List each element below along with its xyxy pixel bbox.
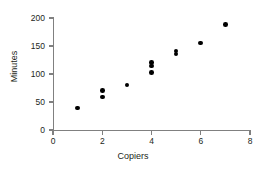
x-tick-label-4: 4 [142,137,162,146]
x-tick-label-6: 6 [191,137,211,146]
data-point [198,41,203,46]
y-axis-title: Minutes [10,32,19,102]
y-tick-label-50: 50 [36,98,45,107]
x-tick-2 [102,130,103,135]
data-point [149,70,154,75]
x-tick-label-0: 0 [43,137,63,146]
y-tick-label-200: 200 [31,14,45,23]
x-tick-6 [200,130,201,135]
data-point [100,95,105,100]
x-tick-label-8: 8 [240,137,260,146]
x-tick-0 [52,130,53,135]
x-tick-8 [249,130,250,135]
plot-data-area [53,18,250,130]
scatter-plot-figure: 050100150200 02468 Minutes Copiers [0,0,266,175]
data-point [174,52,179,57]
y-tick-label-150: 150 [31,42,45,51]
x-tick-4 [151,130,152,135]
data-point [100,88,105,93]
y-axis-tick-labels: 050100150200 [0,0,45,175]
data-point [125,83,130,88]
data-point [75,106,80,111]
y-tick-label-0: 0 [40,126,45,135]
y-tick-label-100: 100 [31,70,45,79]
x-axis-title: Copiers [0,152,266,161]
data-point [223,22,228,27]
x-tick-label-2: 2 [92,137,112,146]
data-point [149,64,154,69]
